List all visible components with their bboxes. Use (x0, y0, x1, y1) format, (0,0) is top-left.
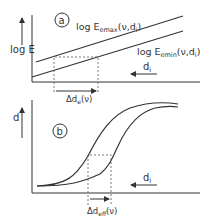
panel-b-interval-label: Δdeff(ν) (87, 206, 117, 217)
panel-b-upper-s-curve (37, 103, 178, 186)
panel-b: d b Δdeff(ν) di (13, 100, 200, 217)
panel-b-y-label: d (13, 112, 19, 123)
panel-a-direction-label: di (143, 61, 151, 74)
panel-a-marker: a (59, 15, 65, 26)
panel-b-dashed-projection (88, 155, 111, 205)
lower-curve-label: log Eemin(ν,di) (137, 46, 200, 59)
panel-a-y-label: log E (10, 44, 35, 55)
panel-b-lower-s-curve (37, 106, 178, 186)
panel-a: log E a log Eemax(ν,di) log Eemin(ν,di) … (10, 13, 200, 105)
panel-b-direction-label: di (143, 172, 151, 185)
diagram-canvas: log E a log Eemax(ν,di) log Eemin(ν,di) … (0, 0, 211, 222)
panel-a-interval-label: Δde(ν) (66, 94, 92, 105)
panel-b-marker: b (57, 126, 63, 137)
panel-a-dashed-projection (54, 57, 98, 92)
